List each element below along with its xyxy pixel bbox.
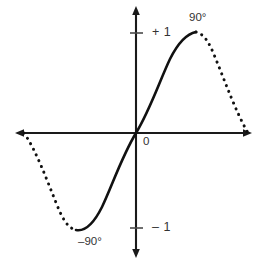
sine-wave-figure: + 1 – 1 0 90° –90° <box>0 0 266 265</box>
y-axis-label-minus-one: – 1 <box>152 221 171 234</box>
origin-label: 0 <box>143 136 149 148</box>
peak-degree-label: 90° <box>189 12 206 24</box>
y-axis-label-plus-one: + 1 <box>152 26 171 39</box>
plot-area <box>0 0 266 265</box>
curve-segment-dotted-right <box>196 32 248 133</box>
y-axis-down-arrow-icon <box>132 249 140 258</box>
curve-segment-dotted-left <box>24 133 76 230</box>
trough-degree-label: –90° <box>78 236 102 248</box>
y-axis-up-arrow-icon <box>132 6 140 15</box>
